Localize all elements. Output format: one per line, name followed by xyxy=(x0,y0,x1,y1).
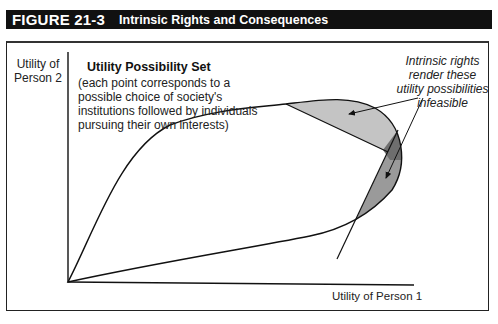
set-title: Utility Possibility Set xyxy=(87,60,211,74)
x-axis xyxy=(68,282,414,285)
annotation-text: Intrinsic rights render these utility po… xyxy=(395,54,490,110)
x-axis-label: Utility of Person 1 xyxy=(332,290,422,302)
y-axis-label: Utility of Person 2 xyxy=(14,57,62,85)
utility-diagram xyxy=(0,0,498,324)
infeasible-region-lower xyxy=(337,130,420,260)
set-description: (each point corresponds to a possible ch… xyxy=(78,76,258,132)
